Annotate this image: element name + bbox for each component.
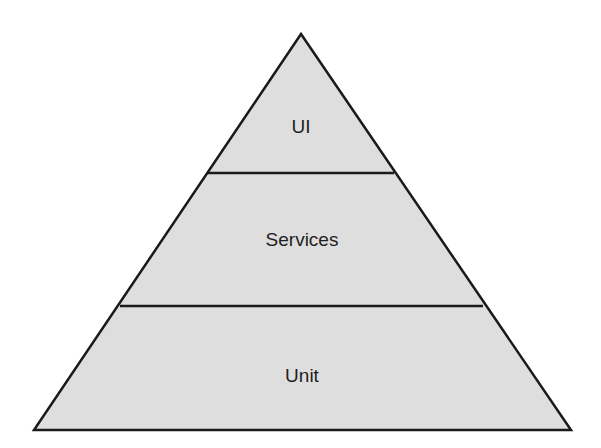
layer-label-ui: UI <box>292 116 311 138</box>
layer-label-services: Services <box>266 229 339 251</box>
layer-label-unit: Unit <box>285 365 319 387</box>
